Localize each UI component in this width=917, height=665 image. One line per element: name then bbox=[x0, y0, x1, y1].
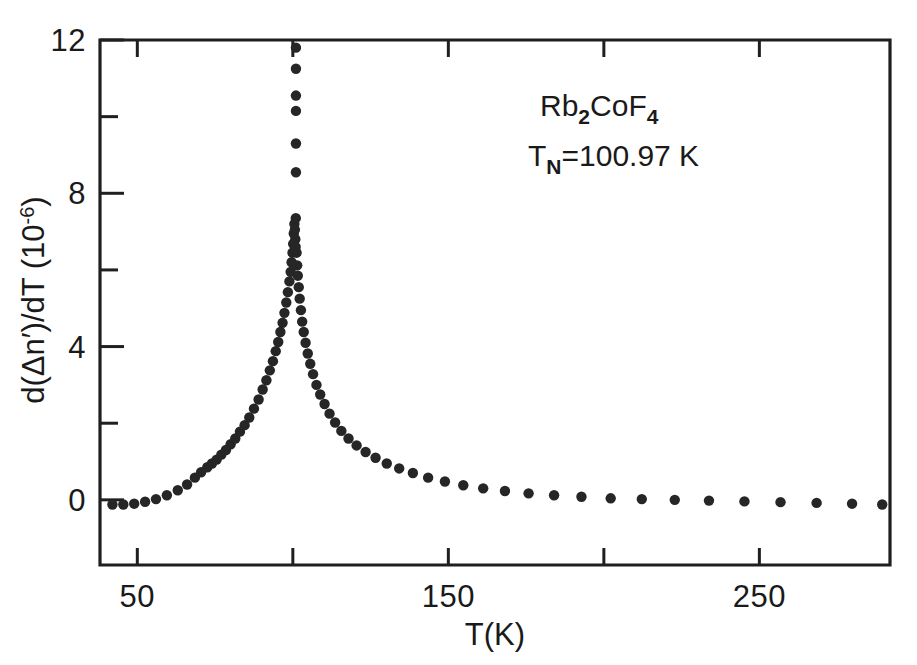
data-point bbox=[162, 490, 172, 500]
data-point bbox=[271, 346, 281, 356]
y-axis-tick-labels: 04812 bbox=[51, 23, 86, 518]
data-point bbox=[670, 495, 680, 505]
data-point bbox=[249, 403, 259, 413]
data-point bbox=[293, 270, 303, 280]
data-point bbox=[523, 488, 533, 498]
data-point bbox=[478, 483, 488, 493]
data-point bbox=[360, 447, 370, 457]
data-point bbox=[273, 337, 283, 347]
neel-subscript: N bbox=[546, 155, 561, 178]
data-point bbox=[291, 213, 301, 223]
x-tick-label: 50 bbox=[120, 579, 155, 614]
data-point bbox=[291, 247, 301, 257]
data-point bbox=[311, 380, 321, 390]
data-point bbox=[877, 499, 887, 509]
data-point bbox=[303, 348, 313, 358]
data-point bbox=[284, 276, 294, 286]
data-point bbox=[382, 458, 392, 468]
data-point bbox=[292, 260, 302, 270]
data-point bbox=[291, 106, 301, 116]
data-point bbox=[500, 486, 510, 496]
compound-sub-1: 2 bbox=[578, 105, 590, 128]
x-axis-ticks bbox=[137, 40, 759, 565]
data-point bbox=[129, 498, 139, 508]
data-point bbox=[265, 365, 275, 375]
data-point bbox=[294, 282, 304, 292]
y-tick-label: 8 bbox=[68, 176, 86, 211]
data-point bbox=[775, 497, 785, 507]
x-tick-label: 250 bbox=[733, 579, 786, 614]
data-point bbox=[291, 90, 301, 100]
x-axis-title: T(K) bbox=[465, 617, 525, 652]
compound-annotation: Rb2CoF4 bbox=[540, 89, 659, 128]
data-point bbox=[268, 356, 278, 366]
data-point bbox=[440, 476, 450, 486]
y-axis-title-close: ) bbox=[16, 196, 51, 206]
data-point bbox=[351, 440, 361, 450]
plot-frame bbox=[100, 40, 890, 565]
data-point bbox=[330, 417, 340, 427]
x-tick-label: 150 bbox=[422, 579, 475, 614]
data-point bbox=[637, 494, 647, 504]
data-point bbox=[319, 399, 329, 409]
y-axis-title-exponent: -6 bbox=[16, 207, 38, 225]
x-axis-tick-labels: 50150250 bbox=[120, 579, 786, 614]
data-point bbox=[408, 468, 418, 478]
data-point bbox=[299, 327, 309, 337]
data-point bbox=[343, 433, 353, 443]
data-point bbox=[704, 495, 714, 505]
data-point bbox=[606, 493, 616, 503]
data-point bbox=[370, 453, 380, 463]
data-point bbox=[244, 412, 254, 422]
data-point bbox=[291, 64, 301, 74]
data-point bbox=[300, 338, 310, 348]
data-point bbox=[253, 394, 263, 404]
data-point bbox=[811, 498, 821, 508]
y-axis-title: d(Δn′)/dT (10-6) bbox=[16, 196, 51, 403]
data-point bbox=[279, 308, 289, 318]
data-point bbox=[173, 485, 183, 495]
svg-text:d(Δn′)/dT (10-6): d(Δn′)/dT (10-6) bbox=[16, 196, 51, 403]
neel-temperature-annotation: TN=100.97 K bbox=[528, 139, 699, 178]
data-point bbox=[140, 497, 150, 507]
y-axis-title-main: d(Δn′)/dT (10 bbox=[16, 224, 51, 403]
y-axis-ticks bbox=[100, 40, 124, 500]
data-point bbox=[182, 479, 192, 489]
data-point bbox=[275, 327, 285, 337]
data-point bbox=[151, 494, 161, 504]
data-point bbox=[305, 359, 315, 369]
figure-container: 50150250 04812 T(K) d(Δn′)/dT (10-6) Rb2… bbox=[0, 0, 917, 665]
data-point bbox=[308, 369, 318, 379]
data-point bbox=[576, 492, 586, 502]
data-point bbox=[261, 375, 271, 385]
data-point bbox=[458, 480, 468, 490]
neel-value: =100.97 K bbox=[562, 139, 700, 172]
data-point bbox=[549, 490, 559, 500]
data-points-layer bbox=[107, 42, 887, 509]
data-point bbox=[315, 389, 325, 399]
data-point bbox=[291, 138, 301, 148]
data-point bbox=[118, 499, 128, 509]
data-point bbox=[107, 499, 117, 509]
data-point bbox=[291, 42, 301, 52]
data-point bbox=[296, 305, 306, 315]
data-point bbox=[283, 287, 293, 297]
y-tick-label: 0 bbox=[68, 483, 86, 518]
compound-prefix: Rb bbox=[540, 89, 578, 122]
data-point bbox=[847, 498, 857, 508]
data-point bbox=[290, 224, 300, 234]
compound-sub-2: 4 bbox=[647, 105, 659, 128]
data-point bbox=[324, 408, 334, 418]
y-tick-label: 12 bbox=[51, 23, 86, 58]
data-point bbox=[277, 318, 287, 328]
neel-symbol: T bbox=[528, 139, 546, 172]
data-point bbox=[294, 293, 304, 303]
data-point bbox=[423, 472, 433, 482]
scatter-plot: 50150250 04812 T(K) d(Δn′)/dT (10-6) Rb2… bbox=[0, 0, 917, 665]
y-tick-label: 4 bbox=[68, 330, 86, 365]
data-point bbox=[281, 297, 291, 307]
data-point bbox=[291, 167, 301, 177]
data-point bbox=[394, 463, 404, 473]
data-point bbox=[257, 384, 267, 394]
compound-mid: CoF bbox=[590, 89, 647, 122]
